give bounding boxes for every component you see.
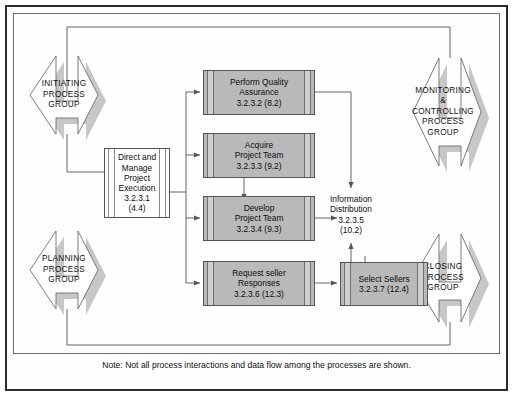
process-box-acquire-project-team[interactable]: Acquire Project Team 3.2.3.3 (9.2) (203, 133, 315, 178)
diagram-canvas: INITIATING PROCESS GROUP PLANNING PROCES… (0, 0, 517, 405)
process-group-initiating[interactable]: INITIATING PROCESS GROUP (30, 56, 98, 134)
process-box-acquire-project-team-label: Acquire Project Team 3.2.3.3 (9.2) (226, 140, 293, 171)
process-box-direct-manage-project-execution[interactable]: Direct and Manage Project Execution 3.2.… (104, 148, 170, 218)
process-box-perform-quality-assurance[interactable]: Perform Quality Assurance 3.2.3.2 (8.2) (203, 70, 315, 115)
process-group-planning-label: PLANNING PROCESS GROUP (30, 231, 98, 309)
process-group-monitoring-controlling-label: MONITORING & CONTROLLING PROCESS GROUP (405, 58, 481, 166)
process-box-request-seller-responses-label: Request seller Responses 3.2.3.6 (12.3) (223, 268, 295, 299)
line-planning-bottom (67, 309, 450, 345)
process-box-develop-project-team[interactable]: Develop Project Team 3.2.3.4 (9.3) (203, 196, 315, 241)
process-box-direct-manage-project-execution-label: Direct and Manage Project Execution 3.2.… (109, 152, 165, 213)
process-box-select-sellers[interactable]: Select Sellers 3.2.3.7 (12.4) (340, 262, 428, 306)
process-group-initiating-label: INITIATING PROCESS GROUP (30, 56, 98, 134)
process-box-perform-quality-assurance-label: Perform Quality Assurance 3.2.3.2 (8.2) (221, 77, 297, 108)
process-box-develop-project-team-label: Develop Project Team 3.2.3.4 (9.3) (226, 203, 293, 234)
process-group-planning[interactable]: PLANNING PROCESS GROUP (30, 231, 98, 309)
process-box-select-sellers-label: Select Sellers 3.2.3.7 (12.4) (349, 274, 418, 294)
process-box-request-seller-responses[interactable]: Request seller Responses 3.2.3.6 (12.3) (203, 261, 315, 306)
line-qa-to-information (315, 92, 351, 188)
process-group-monitoring-controlling[interactable]: MONITORING & CONTROLLING PROCESS GROUP (405, 58, 481, 166)
line-initiating-to-direct (67, 134, 104, 172)
diagram-note: Note: Not all process interactions and d… (13, 360, 500, 370)
text-node-information-distribution: Information Distribution 3.2.3.5 (10.2) (313, 194, 389, 236)
